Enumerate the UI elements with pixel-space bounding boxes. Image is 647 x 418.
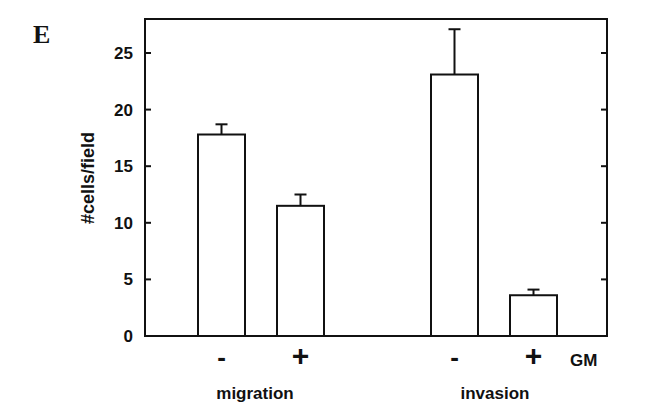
- x-category-label: +: [292, 339, 310, 372]
- y-tick-label: 15: [114, 157, 133, 176]
- y-axis-label: #cells/field: [78, 132, 98, 224]
- x-category-label: -: [450, 342, 459, 372]
- group-label: migration: [216, 384, 293, 403]
- bar: [510, 295, 557, 336]
- x-category-label: +: [525, 339, 543, 372]
- bar: [431, 75, 478, 336]
- y-tick-label: 25: [114, 44, 133, 63]
- y-tick-label: 5: [124, 270, 133, 289]
- y-tick-label: 20: [114, 101, 133, 120]
- y-tick-label: 0: [124, 327, 133, 346]
- bar: [198, 135, 245, 336]
- group-label: invasion: [461, 384, 530, 403]
- treatment-label: GM: [570, 351, 597, 370]
- bar: [277, 206, 324, 336]
- bar-chart: 0510152025-+-+GMmigrationinvasion#cells/…: [0, 0, 647, 418]
- x-category-label: -: [217, 342, 226, 372]
- y-tick-label: 10: [114, 214, 133, 233]
